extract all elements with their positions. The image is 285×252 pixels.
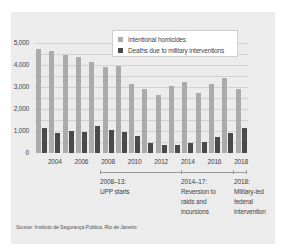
y-axis-label: 4,000 xyxy=(3,61,29,68)
annotation-upp: 2008–13: UPP starts xyxy=(100,177,129,197)
annotation-reversion-line1: Reversion to xyxy=(181,187,216,197)
legend-item-homicides: Intentional homicides xyxy=(118,36,186,43)
x-axis-label: 2008 xyxy=(96,158,120,165)
bar-military-deaths-2007 xyxy=(95,126,100,153)
bar-military-deaths-2008 xyxy=(109,130,114,153)
bar-military-deaths-2011 xyxy=(148,143,153,153)
bar-military-deaths-2016 xyxy=(215,137,220,153)
bar-military-deaths-2010 xyxy=(135,136,140,153)
bar-military-deaths-2009 xyxy=(122,132,127,153)
bar-homicides-2012 xyxy=(156,95,161,153)
bar-homicides-2009 xyxy=(116,66,121,153)
timeline-marker-2018-end xyxy=(246,170,247,174)
annotation-upp-text: UPP starts xyxy=(100,187,129,197)
legend-label-homicides: Intentional homicides xyxy=(128,36,186,43)
bar-homicides-2007 xyxy=(89,62,94,153)
x-axis-label: 2014 xyxy=(176,158,200,165)
bar-military-deaths-2006 xyxy=(82,132,87,153)
bar-military-deaths-2005 xyxy=(69,131,74,153)
x-axis-label: 2010 xyxy=(123,158,147,165)
y-axis-label: 3,000 xyxy=(3,83,29,90)
annotation-reversion: 2014–17: Reversion to raids and incursio… xyxy=(181,177,216,217)
annotation-reversion-period: 2014–17: xyxy=(181,177,216,187)
legend-swatch-homicides xyxy=(118,37,123,42)
legend-swatch-military-deaths xyxy=(118,48,123,53)
timeline-marker-2014 xyxy=(181,170,182,174)
legend: Intentional homicides Deaths due to mili… xyxy=(112,30,238,57)
bar-homicides-2005 xyxy=(63,55,68,153)
bar-homicides-2004 xyxy=(49,51,54,153)
bar-homicides-2006 xyxy=(76,57,81,153)
bar-military-deaths-2012 xyxy=(162,145,167,153)
timeline-marker-2008 xyxy=(100,170,101,174)
source-note: Source: Instituto de Segurança Pública, … xyxy=(16,224,137,230)
annotation-reversion-line3: incursions xyxy=(181,207,216,217)
x-axis-label: 2006 xyxy=(69,158,93,165)
annotation-reversion-line2: raids and xyxy=(181,197,216,207)
bar-military-deaths-2017 xyxy=(228,133,233,153)
annotation-intervention-line2: federal xyxy=(234,197,266,207)
bar-homicides-2011 xyxy=(142,89,147,153)
bar-homicides-2008 xyxy=(103,67,108,153)
bar-homicides-2003 xyxy=(36,49,41,154)
bar-homicides-2018 xyxy=(236,89,241,153)
annotation-intervention: 2018: Military-led federal intervention xyxy=(234,177,266,217)
timeline-axis xyxy=(100,172,247,173)
legend-label-military-deaths: Deaths due to military interventions xyxy=(128,47,224,54)
annotation-intervention-line3: intervention xyxy=(234,207,266,217)
y-axis-label: 2,000 xyxy=(3,105,29,112)
legend-item-military-deaths: Deaths due to military interventions xyxy=(118,47,224,54)
bar-military-deaths-2015 xyxy=(202,142,207,153)
bar-military-deaths-2013 xyxy=(175,145,180,153)
y-axis-label: 5,000 xyxy=(3,39,29,46)
bar-homicides-2016 xyxy=(209,84,214,153)
x-axis-label: 2012 xyxy=(149,158,173,165)
y-axis-label: 0 xyxy=(3,149,29,156)
bar-homicides-2014 xyxy=(182,82,187,154)
y-axis-label: 1,000 xyxy=(3,127,29,134)
bar-homicides-2017 xyxy=(222,78,227,153)
timeline-marker-2018-start xyxy=(233,170,234,174)
bar-military-deaths-2014 xyxy=(188,143,193,153)
x-axis-label: 2016 xyxy=(202,158,226,165)
annotation-intervention-line1: Military-led xyxy=(234,187,266,197)
annotation-upp-period: 2008–13: xyxy=(100,177,129,187)
annotation-intervention-period: 2018: xyxy=(234,177,266,187)
x-axis-label: 2004 xyxy=(43,158,67,165)
bar-military-deaths-2018 xyxy=(242,128,247,153)
bar-military-deaths-2004 xyxy=(55,133,60,153)
bar-military-deaths-2003 xyxy=(42,128,47,153)
bar-homicides-2013 xyxy=(169,86,174,153)
x-axis-label: 2018 xyxy=(229,158,253,165)
bar-homicides-2010 xyxy=(129,84,134,153)
bar-homicides-2015 xyxy=(196,93,201,154)
